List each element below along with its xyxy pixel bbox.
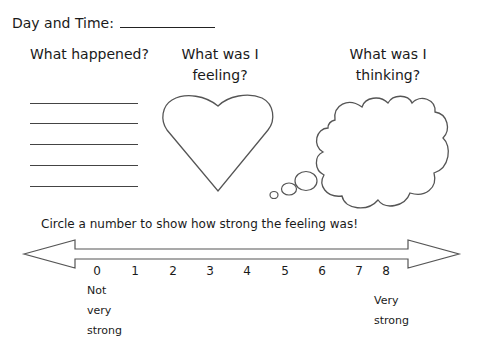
scale-number-5[interactable]: 5 [278, 264, 292, 278]
worksheet-drawings [0, 0, 483, 342]
scale-number-7[interactable]: 7 [352, 264, 366, 278]
scale-number-1[interactable]: 1 [128, 264, 142, 278]
scale-number-6[interactable]: 6 [315, 264, 329, 278]
low-label-line1: Not [87, 281, 122, 301]
thought-bubbles-icon [270, 172, 317, 199]
low-label-line2: very [87, 301, 122, 321]
scale-instruction: Circle a number to show how strong the f… [41, 216, 358, 232]
scale-number-3[interactable]: 3 [203, 264, 217, 278]
scale-number-2[interactable]: 2 [166, 264, 180, 278]
heart-icon[interactable] [163, 95, 273, 191]
high-label-line1: Very [374, 291, 409, 311]
scale-number-0[interactable]: 0 [90, 264, 104, 278]
low-label-line3: strong [87, 321, 122, 341]
scale-number-4[interactable]: 4 [240, 264, 254, 278]
low-intensity-label: Not very strong [87, 281, 122, 341]
high-intensity-label: Very strong [374, 291, 409, 331]
thought-cloud-icon[interactable] [316, 96, 448, 208]
scale-number-8[interactable]: 8 [379, 264, 393, 278]
high-label-line2: strong [374, 311, 409, 331]
